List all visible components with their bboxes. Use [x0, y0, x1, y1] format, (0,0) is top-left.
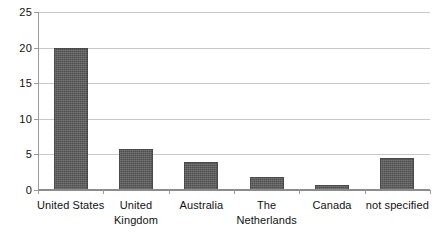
x-axis-tick [38, 190, 39, 194]
y-axis-tick [34, 48, 38, 49]
y-axis-tick [34, 119, 38, 120]
bar-chart: 0510152025 United StatesUnited KingdomAu… [0, 0, 440, 245]
y-axis-tick-label: 0 [0, 185, 32, 196]
x-axis-tick [430, 190, 431, 194]
x-axis-category-label: The Netherlands [230, 198, 303, 228]
y-axis-tick-label: 15 [0, 78, 32, 89]
x-axis-tick [169, 190, 170, 194]
y-axis-tick [34, 83, 38, 84]
y-axis-tick [34, 154, 38, 155]
y-axis-tick [34, 12, 38, 13]
y-axis-tick-label: 20 [0, 42, 32, 53]
x-axis-tick [103, 190, 104, 194]
bar-slot [38, 12, 103, 190]
x-axis-ticks [38, 190, 430, 195]
y-axis-tick-label: 25 [0, 7, 32, 18]
bar [119, 149, 153, 190]
y-axis-tick-label: 10 [0, 113, 32, 124]
bar-slot [234, 12, 299, 190]
bar-slot [365, 12, 430, 190]
plot-area [38, 12, 430, 190]
y-axis-tick-labels: 0510152025 [0, 0, 32, 245]
x-axis-category-labels: United StatesUnited KingdomAustraliaThe … [38, 198, 430, 242]
x-axis-category-label: United States [34, 198, 107, 213]
bar [54, 48, 88, 190]
x-axis-category-label: United Kingdom [99, 198, 172, 228]
x-axis-tick [234, 190, 235, 194]
bar [380, 158, 414, 190]
bar-slot [169, 12, 234, 190]
x-axis-tick [299, 190, 300, 194]
y-axis-tick-label: 5 [0, 149, 32, 160]
bar-slot [103, 12, 168, 190]
x-axis-category-label: Canada [295, 198, 368, 213]
x-axis-category-label: Australia [165, 198, 238, 213]
bar-slot [299, 12, 364, 190]
x-axis-category-label: not specified [361, 198, 434, 213]
x-axis-tick [365, 190, 366, 194]
bar [184, 162, 218, 190]
bar-series [38, 12, 430, 190]
